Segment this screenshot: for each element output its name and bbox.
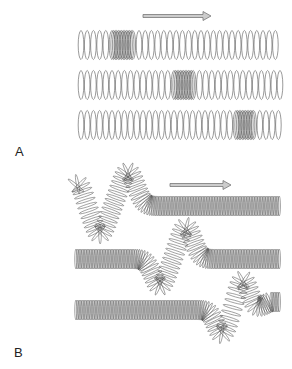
spring-row-transverse xyxy=(75,271,281,344)
spring-row-transverse xyxy=(67,163,280,244)
arrow-b xyxy=(170,181,231,190)
spring-row-longitudinal xyxy=(78,31,278,60)
spring-wave-diagram xyxy=(0,0,292,369)
spring-row-longitudinal xyxy=(78,71,283,100)
arrow-a xyxy=(143,12,211,21)
spring-row-longitudinal xyxy=(78,111,281,140)
